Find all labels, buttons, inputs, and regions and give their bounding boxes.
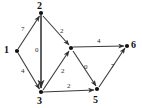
node-label-1: 1 (4, 45, 9, 55)
edge-weight-3-4: 2 (61, 68, 65, 75)
edge-weight-4-5: 0 (84, 64, 88, 71)
edge-4-to-6 (73, 46, 124, 47)
edge-weight-4-6: 4 (97, 38, 101, 45)
node-label-5: 5 (93, 95, 98, 105)
node-4 (69, 46, 73, 50)
edge-weight-5-6: 7 (111, 63, 115, 70)
edge-3-to-5 (43, 90, 94, 92)
graph-canvas (0, 0, 142, 108)
node-1 (15, 49, 19, 53)
node-label-2: 2 (37, 1, 42, 11)
edge-weight-2-3: 0 (35, 47, 39, 54)
edge-weight-1-3: 4 (21, 68, 25, 75)
node-label-3: 3 (37, 96, 42, 106)
edge-weight-3-5: 2 (67, 83, 71, 90)
edge-weight-2-4: 2 (60, 28, 64, 35)
node-label-6: 6 (131, 40, 136, 50)
node-3 (39, 90, 43, 94)
edge-weight-1-2: 7 (21, 26, 25, 33)
node-6 (125, 44, 129, 48)
edge-3-to-4 (43, 51, 69, 90)
node-5 (95, 87, 99, 91)
edge-2-to-4 (43, 16, 69, 45)
node-2 (39, 11, 43, 15)
node-layer (15, 11, 129, 94)
graph-figure: 1 2 3 5 6 7 4 0 2 2 2 4 0 7 (0, 0, 142, 108)
